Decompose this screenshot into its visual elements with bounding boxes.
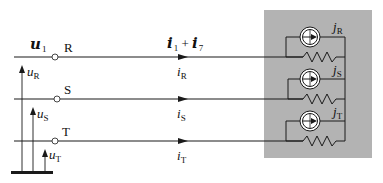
source-label-s: jS [333,63,342,79]
total-voltage-label: u1 [30,37,46,54]
voltage-label-s: uS [37,107,49,123]
ground-bar-icon [11,171,53,174]
node-terminal-icon [52,54,58,60]
current-label-r: iR [177,65,187,81]
current-label-s: iS [177,107,186,123]
voltage-label-r: uR [27,65,40,81]
current-source-icon [300,27,320,47]
node-terminal-icon [52,138,58,144]
source-label-r: jR [333,20,343,36]
current-source-icon [300,111,320,131]
phase-name-s: S [64,83,71,96]
phase-name-t: T [62,125,70,138]
current-label-t: iT [177,149,186,165]
source-label-t: jT [333,105,342,121]
node-terminal-icon [54,96,60,102]
voltage-label-t: uT [49,148,61,164]
phase-name-r: R [64,41,73,54]
total-current-label: i1 + i7 [167,36,203,53]
current-source-icon [300,69,320,89]
